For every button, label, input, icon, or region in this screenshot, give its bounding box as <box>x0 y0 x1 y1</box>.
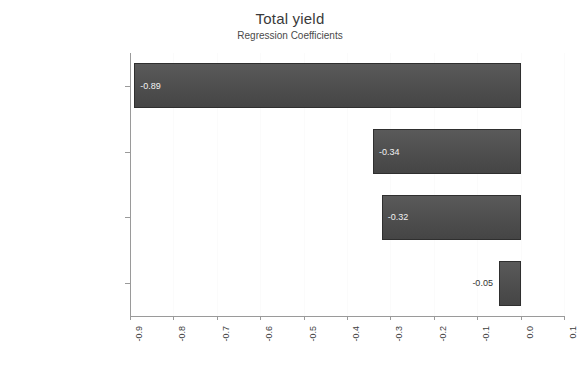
x-axis-tick-label: -0.8 <box>177 326 187 342</box>
x-axis-tick <box>477 316 478 320</box>
x-axis-tick <box>260 316 261 320</box>
x-axis-tick <box>304 316 305 320</box>
bar[interactable]: -0.34 <box>373 129 521 174</box>
x-axis-tick-label: -0.6 <box>264 326 274 342</box>
regression-coefficients-chart: Total yield Regression Coefficients -0.8… <box>0 0 580 365</box>
x-axis-tick <box>347 316 348 320</box>
page-title: Total yield <box>0 10 580 28</box>
chart-subtitle: Regression Coefficients <box>0 29 580 43</box>
bar-value-label: -0.34 <box>379 147 400 157</box>
gridline-vertical <box>521 53 522 316</box>
bar[interactable]: -0.32 <box>382 195 521 240</box>
chart-title-block: Total yield Regression Coefficients <box>0 10 580 43</box>
x-axis-tick-label: 0.0 <box>525 326 535 339</box>
x-axis-tick-label: 0.1 <box>568 326 578 339</box>
x-axis-tick-label: -0.9 <box>134 326 144 342</box>
x-axis-tick <box>217 316 218 320</box>
gridline-vertical <box>564 53 565 316</box>
category-tick <box>125 152 130 153</box>
bar-value-label: -0.89 <box>140 81 161 91</box>
bar[interactable] <box>499 261 521 306</box>
x-axis-tick-label: -0.1 <box>481 326 491 342</box>
x-axis-tick <box>390 316 391 320</box>
bar-value-label: -0.32 <box>388 212 409 222</box>
x-axis-tick <box>564 316 565 320</box>
category-tick <box>125 217 130 218</box>
x-axis-tick-label: -0.2 <box>438 326 448 342</box>
x-axis-tick-label: -0.4 <box>351 326 361 342</box>
y-axis-line <box>130 53 131 316</box>
category-tick <box>125 283 130 284</box>
x-axis-tick-label: -0.5 <box>308 326 318 342</box>
category-tick <box>125 86 130 87</box>
bar[interactable]: -0.89 <box>134 63 520 108</box>
x-axis-tick-label: -0.7 <box>221 326 231 342</box>
x-axis-tick-label: -0.3 <box>394 326 404 342</box>
bar-value-label: -0.05 <box>451 278 493 288</box>
x-axis-tick <box>130 316 131 320</box>
x-axis-tick <box>434 316 435 320</box>
x-axis-tick <box>521 316 522 320</box>
x-axis-tick <box>173 316 174 320</box>
